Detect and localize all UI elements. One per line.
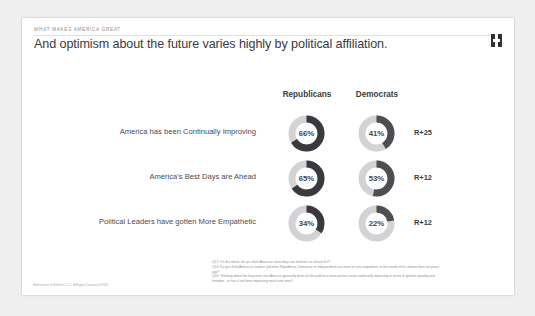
donut-democrats: 22% <box>357 204 396 243</box>
chart-row: America has been Continually Improving 6… <box>22 110 514 155</box>
chart-row: America's Best Days are Ahead 65% 53% R+… <box>22 155 514 200</box>
chart-row: Political Leaders have gotten More Empat… <box>22 200 514 245</box>
donut-value: 22% <box>357 204 396 243</box>
slide-eyebrow: WHAT MAKES AMERICA GREAT <box>34 27 121 32</box>
donut-value: 41% <box>357 114 396 153</box>
donut-republicans: 65% <box>287 159 326 198</box>
donut-value: 53% <box>357 159 396 198</box>
header-divider <box>34 35 502 36</box>
donut-republicans: 34% <box>287 204 326 243</box>
brand-mark-icon <box>491 34 502 47</box>
source-credit: Haberdasher & Kelleher L.L.C. A Magnet C… <box>33 283 108 287</box>
row-label: America's Best Days are Ahead <box>56 172 256 181</box>
column-header-democrats: Democrats <box>340 90 414 99</box>
footnote-line: Q14: Do you think America's leaders (whe… <box>212 265 442 275</box>
footnote-line: Q20: Thinking about the long term, has A… <box>212 274 442 284</box>
donut-democrats: 41% <box>357 114 396 153</box>
row-label: Political Leaders have gotten More Empat… <box>56 217 256 226</box>
donut-value: 66% <box>287 114 326 153</box>
column-header-republicans: Republicans <box>270 90 344 99</box>
donut-value: 34% <box>287 204 326 243</box>
donut-democrats: 53% <box>357 159 396 198</box>
footnote-block: Q12: On the whole, do you think America'… <box>212 260 442 284</box>
gap-label: R+12 <box>414 173 432 182</box>
slide-headline: And optimism about the future varies hig… <box>34 37 387 51</box>
gap-label: R+25 <box>414 128 432 137</box>
donut-republicans: 66% <box>287 114 326 153</box>
row-label: America has been Continually Improving <box>56 127 256 136</box>
slide-card: WHAT MAKES AMERICA GREAT And optimism ab… <box>22 18 514 295</box>
brand-mark-logo <box>490 33 503 48</box>
gap-label: R+12 <box>414 218 432 227</box>
donut-value: 65% <box>287 159 326 198</box>
